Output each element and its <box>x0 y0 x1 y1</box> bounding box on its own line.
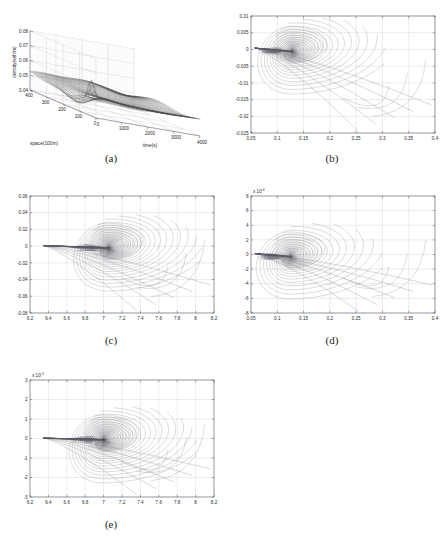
axis-tick-label: 0.04 <box>19 88 28 93</box>
axis-tick-label: 100 <box>75 114 83 119</box>
axis-gridline <box>121 123 122 125</box>
panel-b-phase-plot: 0.050.10.150.20.250.30.350.40.010.0050-0… <box>221 2 443 154</box>
phase-trajectory <box>151 424 204 480</box>
phase-trajectory <box>255 26 367 82</box>
axis-tick-label: 0 <box>246 252 249 257</box>
axis-tick-label: 0.4 <box>432 316 439 321</box>
axis-tick-label: 0.06 <box>19 194 28 199</box>
axis-tick-label: 0 <box>246 47 249 52</box>
axis-tick-label: -0.02 <box>17 261 28 266</box>
y-axis-label: time(s) <box>143 143 158 148</box>
axis-tick-label: 6 <box>246 208 249 213</box>
x-axis-label: space(100m) <box>30 141 58 146</box>
axis-tick-label: 7.2 <box>119 316 126 321</box>
axis-tick-label: 0.15 <box>299 136 308 141</box>
phase-trajectory <box>44 219 155 267</box>
axis-tick-label: 4 <box>246 223 249 228</box>
axis-gridline <box>173 132 174 134</box>
plot-element: 6.26.46.66.877.27.47.67.888.23210-1-2-3x… <box>23 372 217 506</box>
axis-tick-label: 6.6 <box>64 316 71 321</box>
panel-e-svg: 6.26.46.66.877.27.47.67.888.23210-1-2-3x… <box>0 366 222 518</box>
axis-tick-label: 7.4 <box>137 500 144 505</box>
plot-element: -4 <box>262 188 265 192</box>
phase-trajectory <box>255 48 376 124</box>
axis-tick-label: 6.2 <box>27 316 34 321</box>
phase-trajectory <box>44 412 176 469</box>
axis-tick-label: 0.3 <box>379 136 386 141</box>
plot-element: 6.26.46.66.877.27.47.67.888.20.060.040.0… <box>17 194 218 321</box>
axis-tick-label: 1 <box>25 417 28 422</box>
axis-tick-label: 0 <box>25 244 28 249</box>
axis-tick-label: 8.2 <box>211 316 218 321</box>
axis-tick-label: 2 <box>25 397 28 402</box>
axis-tick-label: -2 <box>244 267 249 272</box>
phase-trajectory <box>372 60 425 116</box>
axis-tick-label: 0.04 <box>19 210 28 215</box>
axis-tick-label: 4000 <box>197 140 208 145</box>
axis-tick-label: 0.05 <box>247 136 256 141</box>
axis-tick-label: 7 <box>102 316 105 321</box>
panel-c-phase-plot: 6.26.46.66.877.27.47.67.888.20.060.040.0… <box>0 182 222 334</box>
panel-e-phase-plot: 6.26.46.66.877.27.47.67.888.23210-1-2-3x… <box>0 366 222 518</box>
axis-tick-label: 6.4 <box>45 500 52 505</box>
axis-tick-label: 6.4 <box>45 316 52 321</box>
phase-trajectory <box>372 240 425 296</box>
axis-tick-label: 0.25 <box>352 136 361 141</box>
axis-tick-label: 0.08 <box>19 29 28 34</box>
axis-tick-label: -0.005 <box>235 64 248 69</box>
axis-tick-label: 1000 <box>119 126 130 131</box>
panel-a-svg: 0.080.070.060.050.0440030020010000100020… <box>0 2 222 154</box>
axis-tick-label: 0.05 <box>19 73 28 78</box>
plot-element: -3 <box>41 372 44 376</box>
axis-tick-label: 0.06 <box>19 58 28 63</box>
phase-trajectory <box>255 48 431 105</box>
axis-tick-label: 8 <box>194 500 197 505</box>
axis-tick-label: -0.06 <box>17 294 28 299</box>
panel-c-caption: (c) <box>0 334 222 346</box>
axis-tick-label: 0.05 <box>247 316 256 321</box>
axis-tick-label: -2 <box>23 475 28 480</box>
axis-tick-label: 7.2 <box>119 500 126 505</box>
plot-element: 0.050.10.150.20.250.30.350.486420-2-4-6-… <box>244 188 438 322</box>
axis-tick-label: -1 <box>23 456 28 461</box>
figure-panel-grid: 0.080.070.060.050.0440030020010000100020… <box>0 0 443 549</box>
axis-tick-label: 0.3 <box>379 316 386 321</box>
axis-tick-label: 0.35 <box>404 316 413 321</box>
axis-tick-label: 0.25 <box>352 316 361 321</box>
axis-tick-label: 8.2 <box>211 500 218 505</box>
phase-trajectory <box>255 224 354 282</box>
axis-tick-label: -8 <box>244 311 249 316</box>
panel-b-svg: 0.050.10.150.20.250.30.350.40.010.0050-0… <box>221 2 443 154</box>
phase-trajectory <box>44 419 192 475</box>
axis-tick-label: 0.35 <box>404 136 413 141</box>
axis-tick-label: x 10-3 <box>32 372 44 378</box>
axis-tick-label: 6.6 <box>64 500 71 505</box>
axis-gridline <box>199 136 200 138</box>
axis-tick-label: -0.01 <box>238 81 249 86</box>
panel-a-caption: (a) <box>0 152 222 164</box>
axis-tick-label: 7.8 <box>174 500 181 505</box>
phase-trajectory <box>44 438 137 495</box>
panel-e-caption: (e) <box>0 518 222 530</box>
plot-element: 0.050.10.150.20.250.30.350.40.010.0050-0… <box>235 14 438 141</box>
axis-tick-label: -6 <box>244 296 249 301</box>
axis-tick-label: 0.02 <box>19 227 28 232</box>
plot-element: 0.080.070.060.050.0440030020010000100020… <box>12 29 208 149</box>
axis-tick-label: 0.1 <box>274 316 281 321</box>
phase-trajectory <box>343 86 389 106</box>
axis-tick-label: x 10-4 <box>253 188 265 194</box>
axis-tick-label: 6.2 <box>27 500 34 505</box>
axis-tick-label: 6.8 <box>82 500 89 505</box>
z-axis-label: density(veh/m) <box>12 46 17 78</box>
axis-tick-label: -0.025 <box>235 131 248 136</box>
axis-tick-label: 0.1 <box>274 136 281 141</box>
panel-c-svg: 6.26.46.66.877.27.47.67.888.20.060.040.0… <box>0 182 222 334</box>
axis-tick-label: 7.6 <box>156 500 163 505</box>
axis-tick-label: 2 <box>246 238 249 243</box>
panel-d-svg: 0.050.10.150.20.250.30.350.486420-2-4-6-… <box>221 182 443 334</box>
axis-tick-label: -0.02 <box>238 114 249 119</box>
axis-tick-label: 0.07 <box>19 43 28 48</box>
phase-trajectory <box>255 237 373 290</box>
axis-tick-label: 300 <box>42 100 50 105</box>
axis-tick-label: -3 <box>23 495 28 500</box>
